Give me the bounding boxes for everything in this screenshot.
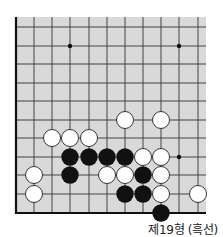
black-stone <box>61 148 78 165</box>
white-stone <box>62 130 79 147</box>
white-stone <box>117 167 134 184</box>
black-stone <box>98 148 115 165</box>
white-stone <box>26 186 43 203</box>
white-stone <box>153 167 170 184</box>
star-point <box>68 44 72 48</box>
go-board <box>0 0 223 237</box>
black-stone <box>61 166 78 183</box>
black-stone <box>116 185 133 202</box>
black-stone <box>116 148 133 165</box>
star-point <box>177 44 181 48</box>
white-stone <box>135 149 152 166</box>
star-point <box>177 155 181 159</box>
white-stone <box>44 130 61 147</box>
black-stone <box>134 185 151 202</box>
white-stone <box>153 149 170 166</box>
black-stone <box>134 166 151 183</box>
white-stone <box>153 186 170 203</box>
diagram-caption: 제19형 (흑선) <box>128 220 218 237</box>
white-stone <box>81 130 98 147</box>
white-stone <box>26 167 43 184</box>
black-stone <box>80 148 97 165</box>
white-stone <box>117 112 134 129</box>
white-stone <box>153 112 170 129</box>
white-stone <box>99 167 116 184</box>
white-stone <box>190 186 207 203</box>
